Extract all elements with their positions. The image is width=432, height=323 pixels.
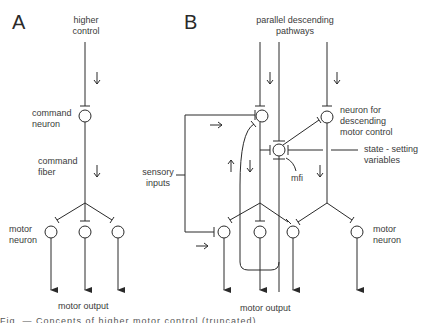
higher-control-label: higher control — [66, 15, 106, 37]
command-fiber-line1: command — [38, 156, 78, 167]
motor-neuron-a-line2: neuron — [9, 235, 37, 246]
neuron-for-descending-line2: descending — [340, 116, 393, 127]
state-setting-line2: variables — [364, 155, 418, 166]
higher-control-line2: control — [66, 26, 106, 37]
motor-neuron-a-line1: motor — [9, 224, 37, 235]
parallel-descending-line1: parallel descending — [250, 15, 340, 26]
motor-neuron-label-b: motor neuron — [373, 224, 401, 246]
state-setting-label: state - setting variables — [364, 144, 418, 166]
motor-neuron-b-line1: motor — [373, 224, 401, 235]
command-fiber-line2: fiber — [38, 167, 78, 178]
neuron-for-descending-label: neuron for descending motor control — [340, 105, 393, 138]
motor-neuron-b-line2: neuron — [373, 235, 401, 246]
panel-b-graphics — [176, 42, 363, 292]
sensory-inputs-line2: inputs — [138, 178, 178, 189]
sensory-inputs-line1: sensory — [138, 167, 178, 178]
parallel-descending-label: parallel descending pathways — [250, 15, 340, 37]
sensory-inputs-label: sensory inputs — [138, 167, 178, 189]
panel-a-label: A — [12, 12, 25, 32]
neuron-for-descending-line1: neuron for — [340, 105, 393, 116]
command-neuron-label: command neuron — [32, 108, 72, 130]
command-neuron-line1: command — [32, 108, 72, 119]
panel-b-label: B — [184, 12, 197, 32]
command-neuron-line2: neuron — [32, 119, 72, 130]
neuron-for-descending-line3: motor control — [340, 127, 393, 138]
motor-output-label-a: motor output — [58, 301, 109, 312]
motor-output-label-b: motor output — [240, 303, 291, 314]
higher-control-line1: higher — [66, 15, 106, 26]
motor-neuron-label-a: motor neuron — [9, 224, 37, 246]
figure-caption-truncated: Fig. — Concepts of higher motor control … — [0, 316, 432, 323]
mfi-label: mfi — [291, 173, 303, 184]
parallel-descending-line2: pathways — [250, 26, 340, 37]
state-setting-line1: state - setting — [364, 144, 418, 155]
command-fiber-label: command fiber — [38, 156, 78, 178]
